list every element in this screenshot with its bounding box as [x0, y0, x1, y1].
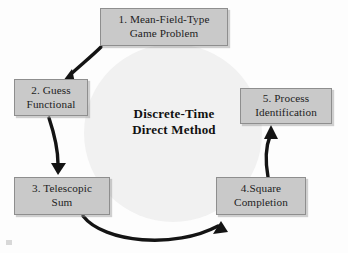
arrow-node4-to-node5: [264, 125, 278, 177]
arrow-node3-to-node4: [83, 216, 228, 240]
node-box-3[interactable]: 3. Telescopic Sum: [14, 177, 110, 215]
arrow-node2-to-node3: [49, 118, 66, 175]
center-title: Discrete-Time Direct Method: [104, 106, 244, 138]
node-box-4[interactable]: 4.Square Completion: [216, 177, 306, 215]
node-box-2[interactable]: 2. Guess Functional: [14, 79, 88, 116]
node-box-5[interactable]: 5. Process Identification: [240, 88, 332, 124]
diagram-canvas: 1. Mean-Field-Type Game Problem 2. Guess…: [0, 0, 348, 253]
node-box-1[interactable]: 1. Mean-Field-Type Game Problem: [100, 8, 228, 46]
arrow-node1-to-node2: [63, 47, 101, 83]
scan-artifact: [6, 240, 12, 245]
